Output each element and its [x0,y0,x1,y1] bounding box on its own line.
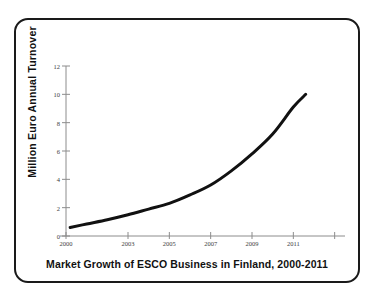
x-tick-label: 2009 [246,240,259,247]
x-tick-label: 2000 [60,240,73,247]
data-series-line [70,94,306,227]
y-tick-label: 4 [44,176,60,183]
chart-canvas: Million Euro Annual Turnover 024681012 2… [0,0,374,297]
x-tick-label: 2005 [163,240,176,247]
y-tick-label: 2 [44,204,60,211]
x-tick-label: 2011 [287,240,300,247]
x-tick-label: 2007 [204,240,217,247]
y-tick-label: 6 [44,148,60,155]
y-tick-label: 12 [44,63,60,70]
y-tick-label: 0 [44,233,60,240]
y-tick-label: 8 [44,119,60,126]
x-tick-label: 2003 [122,240,135,247]
chart-caption: Market Growth of ESCO Business in Finlan… [14,258,360,270]
y-tick-label: 10 [44,91,60,98]
